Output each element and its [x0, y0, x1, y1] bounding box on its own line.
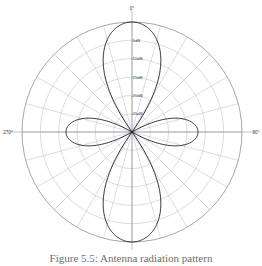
- polar-grid-spoke: [77, 37, 132, 132]
- figure-caption: Figure 5.5: Antenna radiation pattern: [0, 252, 262, 264]
- polar-grid-spoke: [54, 132, 132, 210]
- polar-grid-spoke: [54, 54, 132, 132]
- polar-grid-spoke: [37, 77, 132, 132]
- angle-tick-label: 90°: [253, 130, 260, 135]
- polar-plot-svg: 0°90°180°270° -5dB-10dB-15dB-20dB-25dB: [0, 0, 262, 250]
- angle-tick-label: 270°: [3, 130, 13, 135]
- radial-tick-label: -20dB: [131, 93, 143, 98]
- angle-tick-label: 0°: [130, 6, 135, 11]
- polar-grid-spoke: [37, 132, 132, 187]
- radial-tick-label: -10dB: [131, 56, 143, 61]
- polar-grid-spoke: [132, 77, 227, 132]
- polar-grid-spoke: [132, 54, 210, 132]
- polar-grid-spoke: [132, 37, 187, 132]
- radial-tick-label: -5dB: [131, 38, 140, 43]
- figure-container: 0°90°180°270° -5dB-10dB-15dB-20dB-25dB F…: [0, 0, 262, 266]
- polar-grid-spoke: [132, 132, 210, 210]
- polar-grid-spoke: [77, 132, 132, 227]
- polar-chart: 0°90°180°270° -5dB-10dB-15dB-20dB-25dB: [0, 0, 262, 250]
- polar-grid-spoke: [132, 132, 227, 187]
- radial-tick-label: -15dB: [131, 75, 143, 80]
- radial-tick-labels: -5dB-10dB-15dB-20dB-25dB: [131, 38, 143, 116]
- radial-tick-label: -25dB: [131, 111, 143, 116]
- polar-grid-spokes: [10, 10, 254, 250]
- polar-grid-spoke: [132, 132, 187, 227]
